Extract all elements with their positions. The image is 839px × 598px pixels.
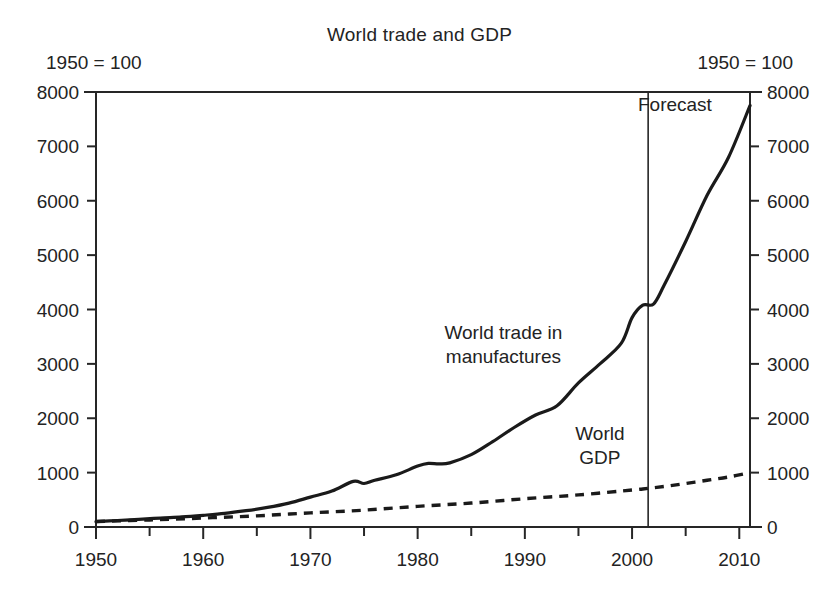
chart-plot: 0100020003000400050006000700080000100020… bbox=[0, 0, 839, 598]
x-tick-label: 1950 bbox=[75, 549, 117, 570]
chart-annotation: WorldGDP bbox=[575, 423, 624, 468]
x-tick-label: 1990 bbox=[504, 549, 546, 570]
chart-figure: World trade and GDP 1950 = 100 1950 = 10… bbox=[0, 0, 839, 598]
x-tick-label: 1980 bbox=[396, 549, 438, 570]
y-tick-label-right: 6000 bbox=[767, 191, 809, 212]
y-tick-label-left: 6000 bbox=[37, 191, 79, 212]
y-tick-label-right: 0 bbox=[767, 517, 778, 538]
series-line-2 bbox=[96, 473, 750, 522]
y-tick-label-left: 4000 bbox=[37, 300, 79, 321]
x-tick-label: 1970 bbox=[289, 549, 331, 570]
y-tick-label-right: 1000 bbox=[767, 463, 809, 484]
y-tick-label-left: 2000 bbox=[37, 408, 79, 429]
x-tick-label: 2010 bbox=[718, 549, 760, 570]
chart-annotation: World trade inmanufactures bbox=[444, 322, 562, 367]
y-tick-label-left: 0 bbox=[68, 517, 79, 538]
y-tick-label-right: 7000 bbox=[767, 136, 809, 157]
y-tick-label-right: 2000 bbox=[767, 408, 809, 429]
chart-annotation: Forecast bbox=[638, 94, 713, 115]
series-line-1 bbox=[96, 106, 750, 522]
y-tick-label-left: 1000 bbox=[37, 463, 79, 484]
y-tick-label-left: 7000 bbox=[37, 136, 79, 157]
y-tick-label-left: 3000 bbox=[37, 354, 79, 375]
x-tick-label: 1960 bbox=[182, 549, 224, 570]
y-tick-label-right: 5000 bbox=[767, 245, 809, 266]
y-tick-label-right: 8000 bbox=[767, 82, 809, 103]
x-tick-label: 2000 bbox=[611, 549, 653, 570]
y-tick-label-left: 5000 bbox=[37, 245, 79, 266]
y-tick-label-right: 3000 bbox=[767, 354, 809, 375]
y-tick-label-right: 4000 bbox=[767, 300, 809, 321]
y-tick-label-left: 8000 bbox=[37, 82, 79, 103]
